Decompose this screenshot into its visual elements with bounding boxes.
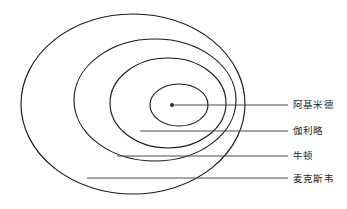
- diagram-canvas: [0, 0, 347, 209]
- ellipse-galileo: [110, 58, 226, 148]
- ellipse-newton: [74, 39, 236, 161]
- nested-ellipse-diagram: 阿基米德 伽利略 牛顿 麦克斯韦: [0, 0, 347, 209]
